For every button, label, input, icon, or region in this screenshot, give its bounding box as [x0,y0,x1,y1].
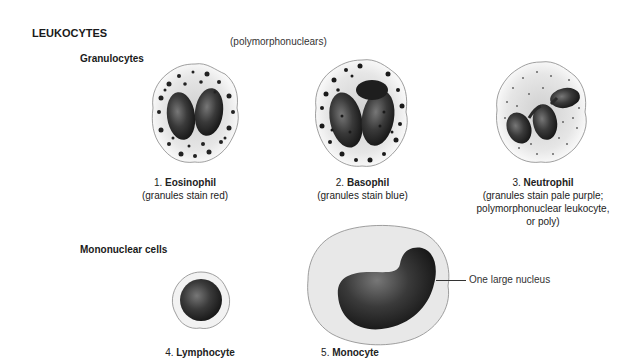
nucleus-leader-line [436,280,466,281]
granulocytes-sublabel: (polymorphonuclears) [230,36,327,47]
monocyte-caption: 5. Monocyte [300,346,400,359]
lymphocyte-caption: 4. Lymphocyte [150,346,250,359]
nucleus-annotation: One large nucleus [469,274,550,285]
lymphocyte-cell-icon [170,270,232,330]
diagram-title: LEUKOCYTES [32,27,107,39]
eosinophil-caption: 1. Eosinophil (granules stain red) [120,176,250,202]
basophil-cell-icon [312,56,412,172]
neutrophil-cell-icon [493,58,589,166]
eosinophil-cell-icon [149,60,241,170]
granulocytes-label: Granulocytes [80,53,144,64]
mononuclear-label: Mononuclear cells [80,244,167,255]
basophil-caption: 2. Basophil (granules stain blue) [295,176,430,202]
neutrophil-caption: 3. Neutrophil (granules stain pale purpl… [458,176,628,228]
monocyte-cell-icon [306,224,452,346]
